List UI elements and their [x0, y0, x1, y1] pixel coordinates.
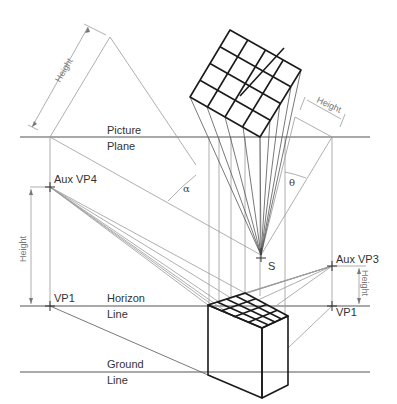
vp1-right-ray	[288, 306, 332, 348]
height-label-top-left: Height	[53, 56, 75, 84]
alpha-arc	[168, 175, 196, 201]
rays-from-aux-vp3	[208, 266, 332, 308]
perspective-diagram: Height Height S α	[0, 0, 397, 404]
plan-view-grid	[190, 30, 301, 137]
vp1-right-label: VP1	[336, 306, 357, 318]
height-label-left: Height	[18, 235, 28, 262]
alpha-label: α	[183, 183, 190, 194]
ground-label-2: Line	[107, 374, 128, 386]
picture-plane-label-2: Plane	[107, 140, 135, 152]
aux-vp3-label: Aux VP3	[336, 253, 379, 265]
height-dimension-left	[29, 187, 50, 304]
theta-label: θ	[289, 177, 295, 188]
rays-from-aux-vp4	[50, 187, 245, 318]
aux-vp4-label: Aux VP4	[54, 173, 97, 185]
height-label-right: Height	[360, 270, 370, 297]
horizon-label-1: Horizon	[107, 292, 145, 304]
height-label-top-right: Height	[315, 95, 343, 115]
height-construction-left	[28, 24, 261, 255]
ground-label-1: Ground	[107, 358, 144, 370]
perspective-box	[208, 293, 288, 398]
station-point-marker	[256, 248, 266, 262]
horizon-label-2: Line	[107, 308, 128, 320]
vp1-left-label: VP1	[54, 292, 75, 304]
picture-plane-label-1: Picture	[107, 124, 141, 136]
station-point-label: S	[268, 260, 275, 272]
